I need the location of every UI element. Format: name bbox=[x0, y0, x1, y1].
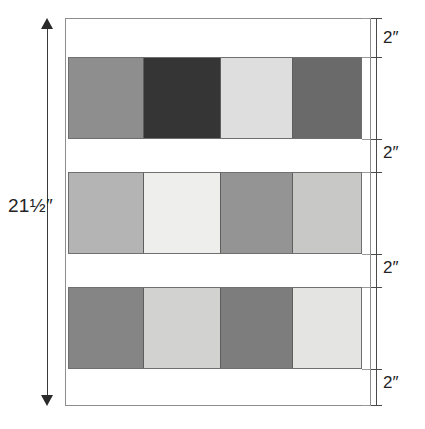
segment-label-top-margin: 2″ bbox=[383, 28, 398, 48]
segment-label-gap-2: 2″ bbox=[383, 258, 398, 278]
fabric-patch bbox=[293, 58, 361, 138]
fabric-patch bbox=[144, 58, 221, 138]
dimension-tick bbox=[371, 57, 382, 58]
fabric-patch bbox=[69, 58, 144, 138]
dimension-tick bbox=[371, 18, 382, 19]
dimension-tick bbox=[371, 254, 382, 255]
dimension-tick bbox=[371, 172, 382, 173]
fabric-strip-row-3 bbox=[68, 287, 362, 369]
fabric-patch bbox=[144, 288, 221, 368]
fabric-strip-row-1 bbox=[68, 57, 362, 139]
fabric-patch bbox=[221, 58, 293, 138]
segment-label-bottom-margin: 2″ bbox=[383, 373, 398, 393]
fabric-patch bbox=[69, 288, 144, 368]
dimension-tick bbox=[371, 405, 382, 406]
dimension-tick bbox=[371, 139, 382, 140]
overall-height-label: 21½″ bbox=[8, 195, 53, 217]
arrow-up-icon bbox=[41, 18, 53, 29]
fabric-strip-row-2 bbox=[68, 172, 362, 254]
fabric-patch bbox=[293, 173, 361, 253]
segment-dimension-line bbox=[376, 18, 377, 406]
fabric-patch bbox=[221, 173, 293, 253]
arrow-down-icon bbox=[41, 395, 53, 406]
fabric-patch bbox=[144, 173, 221, 253]
dimension-tick bbox=[371, 287, 382, 288]
dimension-tick bbox=[371, 369, 382, 370]
segment-label-gap-1: 2″ bbox=[383, 143, 398, 163]
fabric-patch bbox=[293, 288, 361, 368]
fabric-patch bbox=[69, 173, 144, 253]
quilt-layout-diagram: 21½″ 2″ 2″ 2″ 2″ bbox=[0, 0, 425, 429]
fabric-patch bbox=[221, 288, 293, 368]
